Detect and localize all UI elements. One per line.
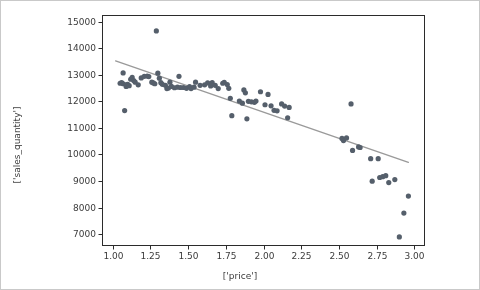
- scatter-plot-canvas: [1, 1, 480, 290]
- x-axis-label: ['price']: [1, 271, 479, 281]
- figure-container: ['price'] ['sales_quantity']: [0, 0, 480, 290]
- y-axis-label: ['sales_quantity']: [12, 85, 22, 205]
